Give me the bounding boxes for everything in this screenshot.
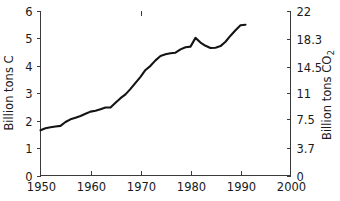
- chart-container: 0123456 03.77.51114.518.322 195019601970…: [0, 0, 340, 201]
- left-axis-ticks: 0123456: [25, 5, 40, 184]
- y-axis-label-left: Billion tons C: [2, 55, 16, 130]
- x-tick-label: 1970: [127, 180, 156, 194]
- right-tick-label: 11: [297, 87, 312, 101]
- left-tick-label: 5: [25, 32, 32, 46]
- left-tick-label: 2: [25, 115, 32, 129]
- left-tick-label: 1: [25, 142, 32, 156]
- emissions-line-chart: 0123456 03.77.51114.518.322 195019601970…: [0, 0, 340, 201]
- axes-group: [41, 11, 291, 176]
- right-tick-label: 22: [297, 5, 312, 19]
- x-tick-label: 1980: [177, 180, 206, 194]
- x-tick-label: 1950: [27, 180, 56, 194]
- x-tick-label: 2000: [277, 180, 306, 194]
- right-tick-label: 3.7: [297, 142, 315, 156]
- right-axis-ticks: 03.77.51114.518.322: [287, 5, 323, 184]
- right-tick-label: 14.5: [297, 61, 323, 75]
- left-tick-label: 4: [25, 60, 32, 74]
- x-tick-label: 1960: [77, 180, 106, 194]
- left-tick-label: 3: [25, 87, 32, 101]
- left-tick-label: 6: [25, 5, 32, 19]
- data-line-carbon-emissions: [41, 25, 246, 131]
- right-tick-label: 18.3: [297, 33, 323, 47]
- y-axis-label-right: Billion tons CO2: [320, 50, 336, 140]
- x-axis-ticks: 195019601970198019902000: [27, 11, 306, 194]
- x-tick-label: 1990: [227, 180, 256, 194]
- right-tick-label: 7.5: [297, 113, 315, 127]
- axis-frame: [41, 11, 291, 176]
